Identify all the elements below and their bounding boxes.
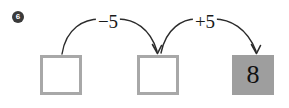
worksheet-canvas: 6 −5 +5 8: [0, 0, 289, 108]
answer-box-1[interactable]: [40, 55, 82, 95]
arrow-minus-five-stroke-right: [118, 19, 157, 51]
operation-label-plus-five: +5: [193, 12, 217, 31]
arrow-minus-five-stroke-left: [62, 19, 100, 54]
arrow-plus-five-head: [252, 45, 261, 54]
arrow-plus-five-stroke-right: [214, 19, 256, 51]
answer-box-2[interactable]: [137, 55, 179, 95]
problem-number-badge: 6: [12, 11, 24, 23]
arrow-plus-five-stroke-left: [161, 19, 196, 53]
answer-box-3[interactable]: 8: [232, 55, 274, 95]
operation-label-minus-five: −5: [96, 12, 120, 31]
arrow-minus-five-head: [153, 45, 162, 54]
